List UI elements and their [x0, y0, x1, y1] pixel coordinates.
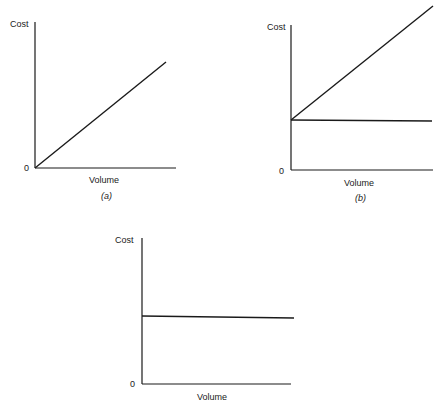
chart-b-fixed-cost-line [291, 120, 432, 121]
chart-b-caption: (b) [355, 194, 366, 203]
chart-a-caption: (a) [101, 192, 112, 201]
chart-b-zero-label: 0 [279, 167, 284, 176]
chart-c-fixed-cost-line [142, 316, 294, 318]
chart-a-y-label: Cost [10, 20, 29, 29]
chart-a-zero-label: 0 [24, 164, 29, 173]
chart-b-x-label: Volume [344, 179, 374, 188]
chart-b-y-label: Cost [267, 23, 286, 32]
cost-behavior-diagrams [0, 0, 438, 406]
chart-a-x-label: Volume [89, 176, 119, 185]
chart-c [142, 238, 294, 384]
chart-c-zero-label: 0 [130, 380, 135, 389]
chart-c-y-label: Cost [115, 236, 134, 245]
chart-b-total-cost-line [291, 6, 433, 120]
chart-a-variable-cost-line [35, 62, 166, 168]
chart-a [35, 22, 176, 168]
chart-c-x-label: Volume [197, 393, 227, 402]
chart-b [291, 6, 433, 170]
